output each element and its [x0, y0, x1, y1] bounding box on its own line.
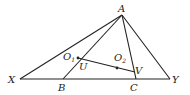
- segment-ax: [20, 15, 122, 79]
- point-o1: [77, 57, 80, 60]
- label-c: C: [130, 82, 138, 93]
- label-v: V: [135, 65, 144, 76]
- point-o2: [116, 67, 119, 70]
- label-x: X: [7, 74, 16, 85]
- geometry-diagram: A X Y B C U V O1 O2: [0, 0, 190, 95]
- label-u: U: [79, 61, 88, 72]
- label-o2: O2: [114, 52, 126, 64]
- label-y: Y: [172, 74, 180, 85]
- label-a: A: [117, 3, 125, 14]
- label-b: B: [57, 82, 65, 93]
- label-o1: O1: [63, 51, 75, 63]
